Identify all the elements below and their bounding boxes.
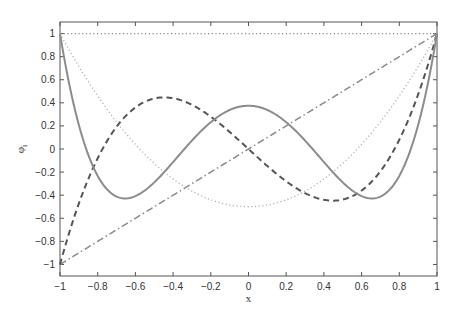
- x-tick-label: 0.4: [317, 281, 331, 292]
- series-line-phi_2: [60, 34, 437, 207]
- x-tick-label: 0: [246, 281, 252, 292]
- x-tick-label: −1: [54, 281, 66, 292]
- y-tick-label: 0.8: [41, 51, 55, 62]
- x-tick-label: 0.6: [355, 281, 369, 292]
- y-tick-label: −0.8: [35, 236, 55, 247]
- x-tick-label: 0.8: [392, 281, 406, 292]
- series-line-phi_1: [60, 34, 437, 265]
- y-tick-label: 0.6: [41, 74, 55, 85]
- y-tick-label: 1: [49, 28, 55, 39]
- x-tick-label: 1: [434, 281, 440, 292]
- x-tick-label: −0.8: [88, 281, 108, 292]
- x-axis-label: x: [246, 292, 252, 304]
- y-tick-label: −0.6: [35, 213, 55, 224]
- y-axis-label-group: φi: [14, 144, 29, 153]
- chart: −1−0.8−0.6−0.4−0.200.20.40.60.81−1−0.8−0…: [0, 0, 459, 312]
- y-axis-label: φi: [14, 144, 29, 153]
- series-group: [60, 34, 437, 265]
- y-tick-label: 0.2: [41, 120, 55, 131]
- x-tick-label: 0.2: [279, 281, 293, 292]
- y-tick-label: 0: [49, 144, 55, 155]
- x-tick-label: −0.2: [201, 281, 221, 292]
- y-tick-label: 0.4: [41, 97, 55, 108]
- x-tick-label: −0.6: [126, 281, 146, 292]
- y-tick-label: −0.2: [35, 167, 55, 178]
- x-tick-label: −0.4: [163, 281, 183, 292]
- series-line-phi_4: [60, 34, 437, 199]
- y-tick-label: −1: [44, 259, 56, 270]
- y-tick-label: −0.4: [35, 190, 55, 201]
- y-axis-label-subscript: i: [20, 144, 29, 147]
- ticks: −1−0.8−0.6−0.4−0.200.20.40.60.81−1−0.8−0…: [35, 22, 440, 292]
